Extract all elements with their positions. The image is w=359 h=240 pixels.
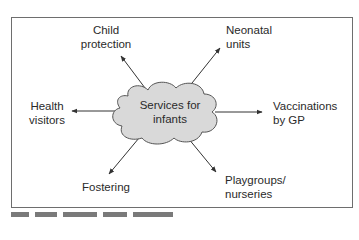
arrow-playgroups <box>188 138 216 172</box>
node-vaccinations: Vaccinations by GP <box>273 99 337 127</box>
node-playgroups: Playgroups/ nurseries <box>225 173 286 201</box>
node-health-visitors: Health visitors <box>27 99 67 127</box>
node-vaccinations-line2: by GP <box>273 113 337 127</box>
node-child-protection: Child protection <box>78 23 134 51</box>
node-health-visitors-line2: visitors <box>27 113 67 127</box>
node-neonatal-units-line1: Neonatal <box>226 23 272 37</box>
figure-caption-clipped <box>11 212 191 217</box>
node-playgroups-line1: Playgroups/ <box>225 173 286 187</box>
node-fostering-line1: Fostering <box>82 180 130 194</box>
node-child-protection-line1: Child <box>78 23 134 37</box>
node-child-protection-line2: protection <box>78 37 134 51</box>
center-node-line1: Services for <box>125 98 215 112</box>
node-playgroups-line2: nurseries <box>225 187 286 201</box>
node-vaccinations-line1: Vaccinations <box>273 99 337 113</box>
arrow-fostering <box>109 138 139 174</box>
arrow-neonatal-units <box>188 48 220 88</box>
node-health-visitors-line1: Health <box>27 99 67 113</box>
node-neonatal-units: Neonatal units <box>226 23 272 51</box>
node-neonatal-units-line2: units <box>226 37 272 51</box>
center-node: Services for infants <box>125 98 215 126</box>
node-fostering: Fostering <box>82 180 130 194</box>
center-node-line2: infants <box>125 112 215 126</box>
